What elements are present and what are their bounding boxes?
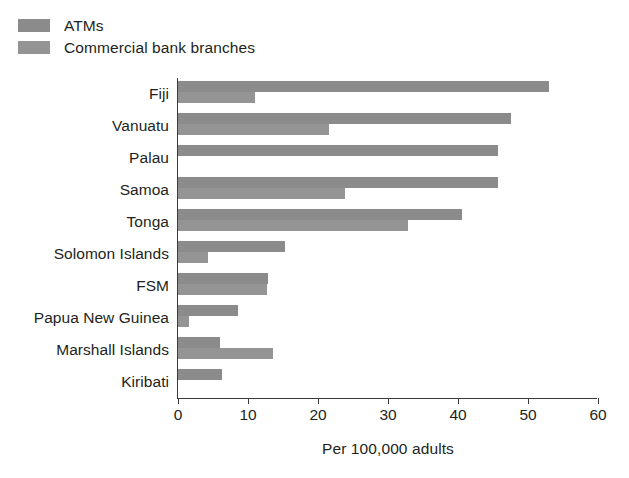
y-axis-category-label: Palau [129, 149, 169, 167]
plot-area: 0102030405060 FijiVanuatuPalauSamoaTonga… [178, 78, 598, 398]
legend-label-commercial-bank-branches: Commercial bank branches [64, 39, 255, 56]
legend-label-atms: ATMs [64, 17, 104, 34]
y-axis-category-label: FSM [136, 277, 169, 295]
bar-row: Kiribati [178, 366, 598, 398]
x-axis-title: Per 100,000 adults [178, 440, 598, 458]
bar-row: Tonga [178, 206, 598, 238]
x-axis-tick [318, 398, 319, 404]
bar-row: FSM [178, 270, 598, 302]
legend-swatch-atms [18, 19, 50, 32]
x-axis-tick [248, 398, 249, 404]
legend-item-commercial-bank-branches: Commercial bank branches [18, 36, 438, 58]
bar-atms [178, 241, 285, 252]
legend-item-atms: ATMs [18, 14, 438, 36]
bar-row: Vanuatu [178, 110, 598, 142]
bar-atms [178, 209, 462, 220]
x-axis-tick [458, 398, 459, 404]
bar-atms [178, 273, 268, 284]
y-axis-category-label: Fiji [149, 85, 169, 103]
x-axis-tick-label: 10 [239, 406, 256, 424]
y-axis-category-label: Papua New Guinea [34, 309, 169, 327]
bar-commercial-bank-branches [178, 348, 273, 359]
x-axis-tick-label: 20 [309, 406, 326, 424]
x-axis-tick-label: 40 [449, 406, 466, 424]
legend-swatch-commercial-bank-branches [18, 41, 50, 54]
x-axis-tick-label: 50 [519, 406, 536, 424]
y-axis-category-label: Samoa [120, 181, 169, 199]
chart-legend: ATMs Commercial bank branches [18, 14, 438, 58]
bar-atms [178, 177, 498, 188]
bar-commercial-bank-branches [178, 124, 329, 135]
x-axis-tick-label: 0 [174, 406, 183, 424]
cropped-title-remnant [24, 0, 584, 7]
bar-commercial-bank-branches [178, 188, 345, 199]
bar-atms [178, 113, 511, 124]
bar-commercial-bank-branches [178, 92, 255, 103]
bar-commercial-bank-branches [178, 220, 408, 231]
x-axis-line [177, 398, 597, 399]
x-axis-tick-label: 30 [379, 406, 396, 424]
bar-row: Solomon Islands [178, 238, 598, 270]
bar-atms [178, 369, 222, 380]
x-axis-tick-label: 60 [589, 406, 606, 424]
bar-row: Samoa [178, 174, 598, 206]
bar-commercial-bank-branches [178, 316, 189, 327]
x-axis-tick [598, 398, 599, 404]
y-axis-category-label: Marshall Islands [56, 341, 169, 359]
bar-atms [178, 81, 549, 92]
y-axis-category-label: Tonga [127, 213, 169, 231]
y-axis-category-label: Kiribati [121, 373, 169, 391]
chart-figure: ATMs Commercial bank branches 0102030405… [0, 0, 629, 478]
bar-atms [178, 305, 238, 316]
y-axis-category-label: Vanuatu [112, 117, 169, 135]
bar-row: Palau [178, 142, 598, 174]
y-axis-category-label: Solomon Islands [54, 245, 169, 263]
x-axis-tick [388, 398, 389, 404]
bar-commercial-bank-branches [178, 284, 267, 295]
bar-row: Marshall Islands [178, 334, 598, 366]
bar-row: Fiji [178, 78, 598, 110]
bar-atms [178, 145, 498, 156]
x-axis-tick [528, 398, 529, 404]
x-axis-tick [178, 398, 179, 404]
bar-atms [178, 337, 220, 348]
bar-commercial-bank-branches [178, 252, 208, 263]
bar-row: Papua New Guinea [178, 302, 598, 334]
